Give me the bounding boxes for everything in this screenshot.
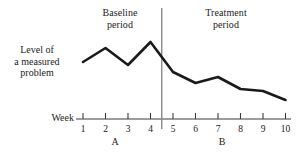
phase-b-letter: B — [212, 136, 232, 147]
treatment-period-label: Treatment period — [180, 7, 272, 30]
x-axis-label: Week — [30, 112, 74, 123]
x-tick-label-3: 3 — [119, 124, 137, 134]
x-axis-ticks — [83, 113, 286, 119]
single-case-design-chart: Baseline period Treatment period Level o… — [0, 0, 300, 155]
data-line — [83, 42, 286, 100]
x-tick-label-1: 1 — [74, 124, 92, 134]
x-tick-label-8: 8 — [232, 124, 250, 134]
phase-a-letter: A — [105, 136, 125, 147]
x-axis — [76, 113, 291, 119]
x-tick-label-5: 5 — [164, 124, 182, 134]
x-tick-label-2: 2 — [97, 124, 115, 134]
x-tick-label-4: 4 — [142, 124, 160, 134]
baseline-period-label: Baseline period — [78, 7, 162, 30]
x-tick-label-7: 7 — [209, 124, 227, 134]
x-tick-label-6: 6 — [187, 124, 205, 134]
x-tick-label-10: 10 — [277, 124, 295, 134]
x-tick-label-9: 9 — [254, 124, 272, 134]
y-axis-label: Level of a measured problem — [2, 44, 72, 79]
